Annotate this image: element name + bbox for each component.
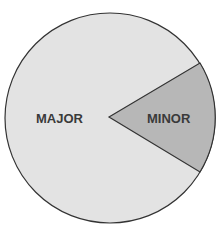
pie-chart: MAJOR MINOR xyxy=(0,0,218,238)
label-major: MAJOR xyxy=(36,111,84,126)
label-minor: MINOR xyxy=(147,111,191,126)
